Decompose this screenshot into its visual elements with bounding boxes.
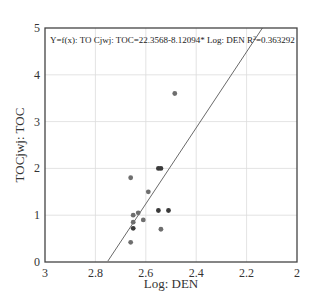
- data-point: [159, 166, 164, 171]
- scatter-chart: 32.82.62.42.22 012345 Y=f(x): TO Cjwj: T…: [0, 0, 317, 305]
- data-point: [128, 175, 133, 180]
- data-point: [128, 240, 133, 245]
- x-axis-label: Log: DEN: [144, 276, 199, 291]
- plot-frame: [45, 28, 297, 262]
- data-point: [131, 213, 136, 218]
- y-tick-label: 1: [34, 208, 40, 222]
- y-tick-label: 5: [34, 21, 40, 35]
- data-point: [131, 220, 136, 225]
- y-tick-label: 0: [34, 255, 40, 269]
- x-tick-label: 3: [42, 266, 48, 280]
- regression-line: [108, 28, 263, 261]
- data-point: [146, 189, 151, 194]
- data-point: [131, 226, 136, 231]
- fit-line: [108, 28, 263, 261]
- y-axis-label: TOCjwj: TOC: [12, 108, 27, 183]
- x-tick-label: 2.8: [88, 266, 103, 280]
- data-point: [166, 208, 171, 213]
- data-point: [156, 208, 161, 213]
- y-tick-label: 2: [34, 161, 40, 175]
- data-point: [172, 91, 177, 96]
- y-tick-label: 4: [34, 68, 40, 82]
- data-point: [141, 217, 146, 222]
- regression-equation: Y=f(x): TO Cjwj: TOC=22.3568-8.12094* Lo…: [50, 35, 295, 45]
- y-tick-label: 3: [34, 115, 40, 129]
- data-point: [159, 227, 164, 232]
- x-tick-label: 2.2: [239, 266, 254, 280]
- grid-lines: [45, 28, 297, 262]
- x-tick-label: 2: [294, 266, 300, 280]
- y-axis-ticks: 012345: [34, 21, 40, 269]
- data-point: [136, 210, 141, 215]
